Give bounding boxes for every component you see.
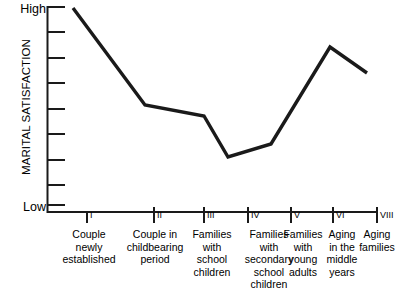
- y-axis-ticks: [48, 7, 65, 205]
- data-series-line: [73, 8, 367, 157]
- x-axis-ticks: [87, 207, 377, 223]
